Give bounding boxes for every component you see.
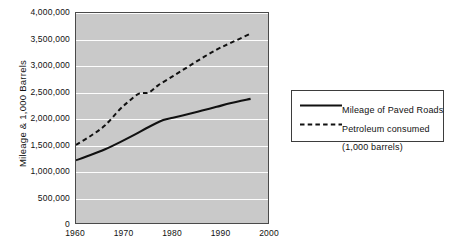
y-axis-tick-label: 500,000	[8, 193, 70, 202]
dashed-line-swatch-icon	[300, 118, 342, 130]
y-axis-tick-label: 2,500,000	[8, 87, 70, 96]
series-line-petroleum-consumed	[76, 34, 251, 145]
x-axis-tick-labels: 19601970198019902000	[0, 228, 451, 242]
legend-sublabel-petroleum-units: (1,000 barrels)	[342, 142, 429, 152]
y-axis-tick-label: 1,000,000	[8, 167, 70, 176]
x-axis-tick-label: 1980	[149, 228, 195, 238]
legend-text-mileage: Mileage of Paved Roads	[342, 99, 446, 117]
y-axis-tick-label: 4,000,000	[8, 8, 70, 17]
legend-label-petroleum: Petroleum consumed	[342, 124, 430, 134]
series-container	[76, 13, 269, 224]
y-axis-tick-label: 1,500,000	[8, 140, 70, 149]
y-axis-tick-label: 3,500,000	[8, 34, 70, 43]
legend-text-petroleum: Petroleum consumed (1,000 barrels)	[342, 118, 443, 154]
y-axis-tick-label: 3,000,000	[8, 61, 70, 70]
x-axis-tick-label: 1990	[198, 228, 244, 238]
line-chart-figure: Mileage & 1,000 Barrels 0500,0001,000,00…	[0, 0, 451, 250]
legend-entry-petroleum-consumed: Petroleum consumed (1,000 barrels)	[292, 118, 443, 134]
solid-line-swatch-icon	[300, 99, 342, 111]
plot-area	[75, 12, 269, 224]
legend-label-mileage: Mileage of Paved Roads	[342, 105, 443, 115]
y-axis-tick-label: 2,000,000	[8, 114, 70, 123]
x-axis-tick-label: 1970	[101, 228, 147, 238]
y-axis-tick-labels: 0500,0001,000,0001,500,0002,000,0002,500…	[8, 12, 70, 224]
x-axis-tick-label: 1960	[52, 228, 98, 238]
legend-entry-mileage-of-paved-roads: Mileage of Paved Roads	[292, 99, 443, 115]
series-line-mileage-of-paved-roads	[76, 99, 251, 160]
x-axis-tick-label: 2000	[246, 228, 292, 238]
chart-legend: Mileage of Paved Roads Petroleum consume…	[291, 90, 444, 142]
